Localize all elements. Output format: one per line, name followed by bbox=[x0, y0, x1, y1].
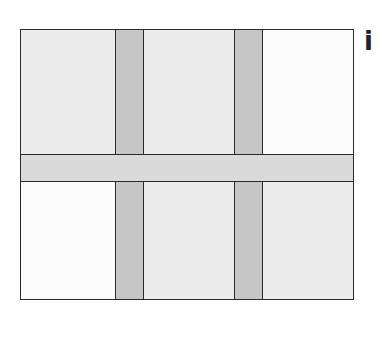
tile-bottom-right bbox=[263, 181, 353, 299]
tile-bottom-left bbox=[21, 181, 116, 299]
tile-bottom-middle bbox=[143, 181, 235, 299]
tile-top-right bbox=[263, 30, 353, 155]
tile-top-left bbox=[21, 30, 116, 155]
figure-label: i bbox=[364, 28, 373, 54]
horizontal-strip bbox=[21, 154, 353, 182]
tile-top-middle bbox=[143, 30, 235, 155]
diagram-frame bbox=[20, 29, 354, 300]
